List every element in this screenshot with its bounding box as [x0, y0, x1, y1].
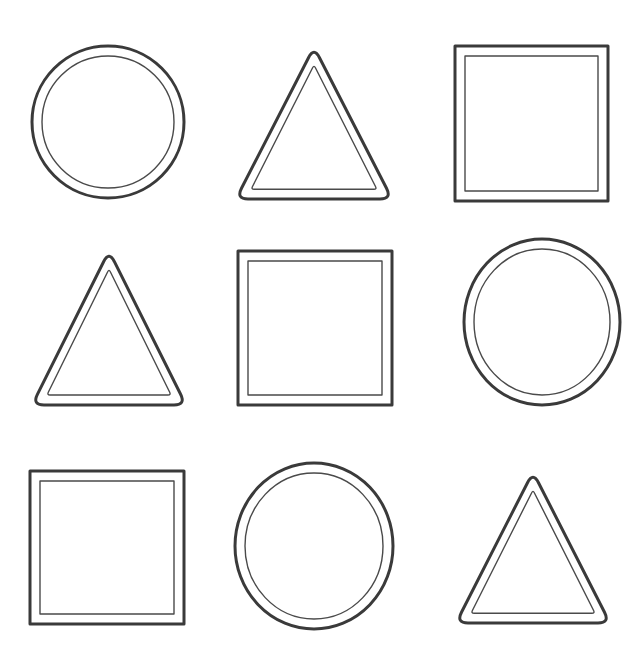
square-outer-outline: [238, 251, 392, 405]
triangle-shape: [460, 477, 606, 623]
square-shape: [455, 46, 608, 201]
circle-outer-outline: [464, 239, 620, 405]
square-shape: [238, 251, 392, 405]
square-shape: [30, 471, 184, 624]
triangle-outer-outline: [36, 256, 183, 405]
circle-shape: [235, 463, 393, 629]
triangle-shape: [36, 256, 183, 405]
circle-shape: [32, 46, 184, 198]
circle-outer-outline: [235, 463, 393, 629]
circle-outer-outline: [32, 46, 184, 198]
triangle-shape: [240, 52, 388, 199]
triangle-outer-outline: [240, 52, 388, 199]
square-outer-outline: [455, 46, 608, 201]
circle-shape: [464, 239, 620, 405]
square-outer-outline: [30, 471, 184, 624]
triangle-outer-outline: [460, 477, 606, 623]
shapes-worksheet: [0, 0, 635, 649]
